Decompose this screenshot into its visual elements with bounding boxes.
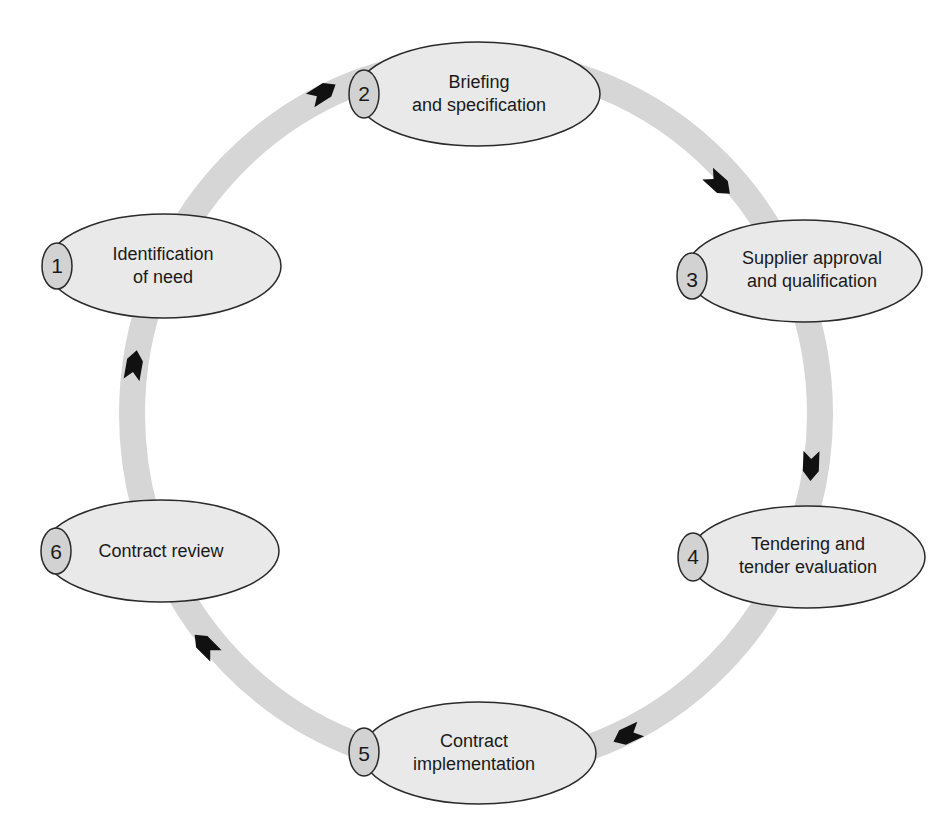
node-label-line2: of need (112, 266, 213, 289)
step-number: 4 (687, 545, 699, 569)
cycle-ring (132, 61, 820, 767)
step-number: 6 (50, 540, 62, 564)
node-label-line2: and qualification (742, 270, 882, 293)
node-label-line1: Tendering and (739, 533, 877, 556)
step-number: 1 (51, 254, 63, 278)
node-label-line2: implementation (413, 753, 535, 776)
node-label-line1: Briefing (412, 71, 546, 94)
node-label-line1: Supplier approval (742, 247, 882, 270)
node-label-line1: Identification (112, 243, 213, 266)
step-number: 5 (358, 742, 370, 766)
cycle-diagram (0, 0, 949, 828)
node-label-line1: Contract review (98, 540, 223, 563)
node-label-line2: and specification (412, 94, 546, 117)
node-label-line2: tender evaluation (739, 556, 877, 579)
step-number: 3 (686, 268, 698, 292)
step-number: 2 (358, 82, 370, 106)
node-label-line1: Contract (413, 730, 535, 753)
